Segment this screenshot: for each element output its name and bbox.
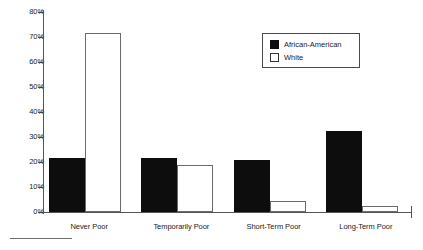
legend-swatch-icon-african-american: [270, 40, 279, 49]
footnote-divider: [10, 238, 72, 239]
y-axis-tick-label: 60%: [11, 58, 44, 66]
y-axis-tick-label-wrap: 50%: [0, 83, 44, 91]
y-axis-tick-label: 50%: [11, 83, 44, 91]
x-axis-category-label: Never Poor: [43, 222, 135, 231]
legend-swatch-icon-white: [270, 53, 279, 62]
bar-chart: 0%10%20%30%40%50%60%70%80% Never PoorTem…: [0, 0, 423, 250]
y-axis-tick-label-wrap: 0%: [0, 208, 44, 216]
bar: [177, 165, 213, 213]
x-axis-line: [43, 212, 412, 213]
y-axis-tick-label: 10%: [11, 183, 44, 191]
bar: [234, 160, 270, 213]
y-axis-tick-label-wrap: 60%: [0, 58, 44, 66]
y-axis-tick-label-wrap: 10%: [0, 183, 44, 191]
legend-entry-african-american: African-American: [270, 39, 342, 50]
y-axis-tick-label-wrap: 70%: [0, 33, 44, 41]
y-axis-tick-label: 40%: [11, 108, 44, 116]
y-axis-tick-label: 80%: [11, 8, 44, 16]
y-axis-tick-label-wrap: 20%: [0, 158, 44, 166]
bar: [326, 131, 362, 212]
bar: [49, 158, 85, 212]
y-axis-tick-label: 0%: [11, 208, 44, 216]
x-axis-category-label: Temporarily Poor: [135, 222, 227, 231]
bar: [270, 201, 306, 212]
y-axis-tick-label: 30%: [11, 133, 44, 141]
legend-label-white: White: [284, 53, 303, 62]
bar: [362, 206, 398, 212]
legend-label-african-american: African-American: [284, 40, 342, 49]
legend-entry-white: White: [270, 52, 303, 63]
bar: [85, 33, 121, 212]
x-axis-category-label: Long-Term Poor: [320, 222, 412, 231]
x-axis-category-label: Short-Term Poor: [228, 222, 320, 231]
bar: [141, 158, 177, 212]
y-axis-tick-label-wrap: 80%: [0, 8, 44, 16]
y-axis-tick-label-wrap: 40%: [0, 108, 44, 116]
y-axis-tick-label-wrap: 30%: [0, 133, 44, 141]
y-axis-tick-label: 70%: [11, 33, 44, 41]
legend: African-American White: [262, 33, 360, 68]
y-axis-tick-label: 20%: [11, 158, 44, 166]
